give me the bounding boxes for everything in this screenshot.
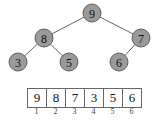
node-label: 8 — [41, 32, 47, 46]
array-index: 2 — [46, 107, 65, 116]
tree-node: 6 — [110, 53, 128, 71]
array-index: 6 — [122, 107, 141, 116]
array-index: 5 — [103, 107, 122, 116]
array-cell: 9 — [28, 89, 47, 107]
tree-node: 9 — [83, 4, 101, 22]
array-index: 4 — [84, 107, 103, 116]
array-index: 1 — [27, 107, 46, 116]
array-cell: 7 — [66, 89, 85, 107]
node-label: 7 — [138, 32, 144, 46]
tree-node: 8 — [35, 29, 53, 47]
heap-array: 9 8 7 3 5 6 — [27, 88, 142, 108]
tree-nodes: 987356 — [9, 4, 150, 71]
tree-node: 7 — [132, 29, 150, 47]
array-cell: 3 — [85, 89, 104, 107]
array-cell: 8 — [47, 89, 66, 107]
node-label: 9 — [89, 7, 95, 21]
heap-tree: 987356 — [0, 0, 159, 85]
array-cell: 6 — [123, 89, 141, 107]
node-label: 5 — [66, 56, 72, 70]
array-indices: 1 2 3 4 5 6 — [27, 107, 141, 116]
array-index: 3 — [65, 107, 84, 116]
tree-node: 5 — [60, 53, 78, 71]
node-label: 3 — [15, 56, 21, 70]
node-label: 6 — [116, 56, 122, 70]
array-cell: 5 — [104, 89, 123, 107]
tree-node: 3 — [9, 53, 27, 71]
